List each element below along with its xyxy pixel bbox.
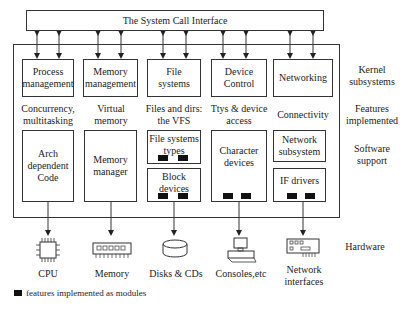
legend: features implemented as modules [14,288,146,298]
character-devices-box: Characterdevices [211,130,267,202]
device-control-box: DeviceControl [211,59,267,97]
module-marker [305,193,315,199]
module-marker [158,193,168,199]
system-call-interface: The System Call Interface [26,10,324,31]
feature-virtual-memory: Virtualmemory [80,103,142,127]
module-marker [223,193,233,199]
block-devices-box: Blockdevices [147,168,201,202]
arch-dependent-code-box: ArchdependentCode [22,130,74,202]
hardware-label-disks: Disks & CDs [144,268,208,280]
file-systems-types-box: File systemstypes [147,130,201,164]
module-marker [158,155,168,161]
memory-chip-icon [91,240,133,260]
cpu-icon [34,236,62,264]
module-marker [178,155,188,161]
module-marker [241,193,251,199]
hardware-label-consoles: Consoles,etc [208,268,274,280]
module-marker [287,193,297,199]
feature-vfs: Files and dirs:the VFS [140,103,208,127]
console-icon [224,236,258,266]
side-label-features-implemented: Featuresimplemented [342,103,402,127]
hardware-label-cpu: CPU [24,268,72,280]
side-label-software-support: Softwaresupport [342,143,402,167]
disk-icon [160,238,190,260]
memory-management-box: Memorymanagement [83,59,138,97]
memory-manager-box: Memorymanager [84,130,137,202]
feature-connectivity: Connectivity [270,109,336,121]
hardware-label-memory: Memory [84,268,140,280]
hardware-label-network-interfaces: Networkinterfaces [276,264,332,288]
network-card-icon [285,237,321,259]
module-marker [178,193,188,199]
process-management-box: Processmanagement [22,59,74,97]
file-systems-box: Filesystems [147,59,201,97]
side-label-hardware: Hardware [335,241,395,253]
networking-box: Networking [273,59,333,97]
network-subsystem-box: Networksubsystem [273,130,326,162]
feature-concurrency: Concurrency,multitasking [14,103,82,127]
feature-ttys: Ttys & deviceaccess [205,103,273,127]
if-drivers-box: IF drivers [273,168,326,202]
side-label-kernel-subsystems: Kernelsubsystems [342,64,402,88]
module-legend-marker [14,290,22,296]
